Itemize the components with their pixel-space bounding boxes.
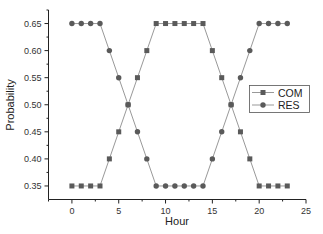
data-point <box>154 21 159 26</box>
data-point <box>163 21 168 26</box>
data-point <box>172 183 177 188</box>
y-axis-title: Probability <box>4 79 16 131</box>
data-point <box>238 75 243 80</box>
data-point <box>116 75 121 80</box>
data-point <box>69 183 74 188</box>
x-tick-label: 10 <box>161 206 171 216</box>
data-point <box>182 183 187 188</box>
data-point <box>79 183 84 188</box>
data-point <box>191 183 196 188</box>
data-point <box>163 183 168 188</box>
data-point <box>266 183 271 188</box>
data-point <box>97 21 102 26</box>
x-axis-title: Hour <box>165 215 189 227</box>
data-point <box>238 129 243 134</box>
y-tick-label: 0.40 <box>24 154 42 164</box>
data-point <box>285 21 290 26</box>
data-point <box>116 129 121 134</box>
data-point <box>285 183 290 188</box>
data-point <box>125 102 130 107</box>
data-point <box>191 21 196 26</box>
y-tick-label: 0.50 <box>24 100 42 110</box>
x-ticks: 0510152025 <box>49 200 312 216</box>
x-tick-label: 15 <box>207 206 217 216</box>
y-tick-label: 0.60 <box>24 46 42 56</box>
data-point <box>98 183 103 188</box>
data-point <box>107 48 112 53</box>
x-tick-label: 0 <box>69 206 74 216</box>
data-point <box>275 183 280 188</box>
data-point <box>210 48 215 53</box>
data-point <box>200 183 205 188</box>
data-point <box>247 48 252 53</box>
data-point <box>219 129 224 134</box>
data-point <box>182 21 187 26</box>
data-point <box>228 102 233 107</box>
data-point <box>256 21 261 26</box>
y-tick-label: 0.65 <box>24 19 42 29</box>
x-tick-label: 5 <box>116 206 121 216</box>
data-point <box>153 183 158 188</box>
circle-marker-icon <box>260 102 265 107</box>
y-tick-label: 0.55 <box>24 73 42 83</box>
data-point <box>247 156 252 161</box>
data-point <box>135 129 140 134</box>
y-tick-label: 0.35 <box>24 181 42 191</box>
data-point <box>79 21 84 26</box>
y-ticks: 0.350.400.450.500.550.600.65 <box>24 10 49 191</box>
data-point <box>144 156 149 161</box>
data-point <box>275 21 280 26</box>
square-marker-icon <box>261 90 266 95</box>
data-point <box>88 183 93 188</box>
data-point <box>210 156 215 161</box>
data-point <box>172 21 177 26</box>
data-point <box>88 21 93 26</box>
x-tick-label: 20 <box>254 206 264 216</box>
legend-label-com: COM <box>278 87 303 99</box>
data-point <box>266 21 271 26</box>
data-point <box>135 75 140 80</box>
data-point <box>144 48 149 53</box>
data-point <box>201 21 206 26</box>
line-chart: 0.350.400.450.500.550.600.65 0510152025 … <box>0 0 323 234</box>
legend-label-res: RES <box>278 99 300 111</box>
data-point <box>107 156 112 161</box>
data-point <box>219 75 224 80</box>
legend: COM RES <box>250 86 310 113</box>
data-point <box>257 183 262 188</box>
y-tick-label: 0.45 <box>24 127 42 137</box>
data-point <box>69 21 74 26</box>
x-tick-label: 25 <box>301 206 311 216</box>
